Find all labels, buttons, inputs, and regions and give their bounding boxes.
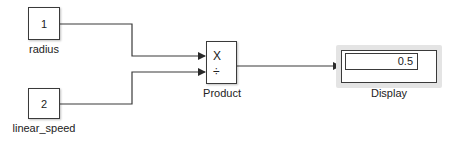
signal-radius-to-product[interactable] bbox=[60, 24, 205, 56]
product-label: Product bbox=[203, 87, 241, 99]
inport-linear-speed-block[interactable]: 2 bbox=[28, 88, 60, 119]
display-block[interactable]: 0.5 bbox=[341, 50, 437, 83]
divide-sign-icon: ÷ bbox=[213, 66, 220, 78]
inport-linear-speed-label: linear_speed bbox=[13, 122, 76, 134]
inport-number: 1 bbox=[29, 18, 59, 30]
product-block[interactable]: X ÷ bbox=[206, 41, 237, 84]
signal-linear-speed-to-product[interactable] bbox=[60, 72, 205, 104]
inport-radius-block[interactable]: 1 bbox=[28, 7, 60, 40]
inport-number: 2 bbox=[29, 98, 59, 110]
inport-radius-label: radius bbox=[29, 43, 59, 55]
multiply-sign-icon: X bbox=[213, 50, 221, 62]
display-label: Display bbox=[371, 87, 407, 99]
display-value: 0.5 bbox=[345, 53, 418, 70]
